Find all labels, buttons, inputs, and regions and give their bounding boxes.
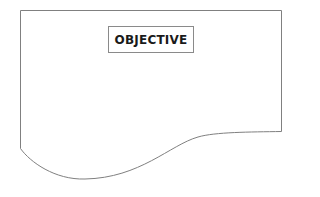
objective-label-box: OBJECTIVE	[108, 26, 194, 53]
objective-label: OBJECTIVE	[115, 33, 188, 47]
